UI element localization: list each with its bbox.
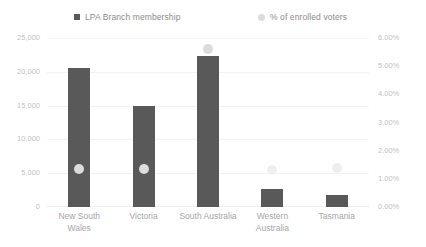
- category-column: [176, 38, 240, 207]
- bar-series-membership[interactable]: [68, 68, 90, 207]
- bar-series-membership[interactable]: [197, 56, 219, 207]
- point-series-voters[interactable]: [267, 165, 277, 175]
- y-axis-tick-right: 2.00%: [378, 146, 399, 156]
- bar-series-membership[interactable]: [133, 106, 155, 207]
- x-axis-tick-label: New South Wales: [47, 211, 111, 234]
- x-axis-tick-label: South Australia: [176, 211, 240, 223]
- category-column: [240, 38, 304, 207]
- y-axis-tick-left: 25,000: [17, 33, 40, 43]
- chart-legend: LPA Branch membership % of enrolled vote…: [0, 10, 426, 24]
- legend-label-dot-series: % of enrolled voters: [270, 12, 347, 22]
- plot-area: 25,000 20,000 15,000 10,000 5,000 0 6.00…: [47, 38, 369, 207]
- square-marker-icon: [74, 14, 80, 20]
- y-axis-tick-right: 1.00%: [378, 174, 399, 184]
- legend-item-bar-series[interactable]: LPA Branch membership: [74, 10, 181, 24]
- point-series-voters[interactable]: [139, 164, 149, 174]
- bar-series-membership[interactable]: [261, 189, 283, 207]
- category-column: [305, 38, 369, 207]
- category-column: [111, 38, 175, 207]
- y-axis-tick-left: 10,000: [17, 134, 40, 144]
- circle-marker-icon: [258, 14, 265, 21]
- combo-chart: LPA Branch membership % of enrolled vote…: [0, 0, 426, 247]
- category-column: [47, 38, 111, 207]
- y-axis-tick-left: 20,000: [17, 67, 40, 77]
- y-axis-tick-left: 5,000: [21, 168, 40, 178]
- legend-label-bar-series: LPA Branch membership: [85, 12, 181, 22]
- legend-item-dot-series[interactable]: % of enrolled voters: [258, 10, 347, 24]
- x-axis-labels: New South Wales Victoria South Australia…: [47, 211, 369, 247]
- x-axis-tick-label: Victoria: [111, 211, 175, 223]
- y-axis-tick-right: 0.00%: [378, 202, 399, 212]
- point-series-voters[interactable]: [203, 44, 213, 54]
- y-axis-tick-right: 6.00%: [378, 33, 399, 43]
- y-axis-tick-right: 4.00%: [378, 89, 399, 99]
- x-axis-tick-label: Western Australia: [240, 211, 304, 234]
- y-axis-tick-left: 15,000: [17, 101, 40, 111]
- bar-series-membership[interactable]: [326, 195, 348, 207]
- point-series-voters[interactable]: [332, 163, 342, 173]
- y-axis-tick-left: 0: [36, 202, 40, 212]
- y-axis-tick-right: 5.00%: [378, 61, 399, 71]
- x-axis-tick-label: Tasmania: [305, 211, 369, 223]
- y-axis-tick-right: 3.00%: [378, 118, 399, 128]
